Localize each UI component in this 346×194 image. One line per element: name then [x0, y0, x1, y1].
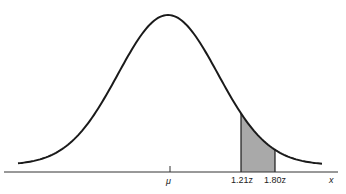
- bell-curve: [18, 15, 322, 164]
- mean-label: μ: [166, 176, 171, 186]
- normal-distribution-diagram: μ 1.21z 1.80z x: [0, 0, 346, 194]
- normal-curve-plot: [0, 0, 346, 194]
- x-axis-label: x: [329, 175, 334, 185]
- upper-bound-label: 1.80z: [264, 175, 286, 185]
- lower-bound-label: 1.21z: [231, 175, 253, 185]
